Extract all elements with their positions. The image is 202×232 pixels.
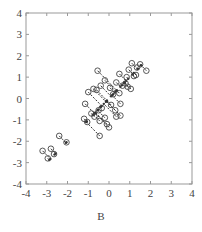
y-tick-label: 3 [17,28,23,40]
y-tick-label: -4 [13,178,23,190]
x-axis-tick-labels: -4-3-2-101234 [21,187,195,199]
y-tick-label: 1 [17,71,23,83]
x-tick-label: -1 [84,187,93,199]
data-point [85,89,91,95]
y-tick-label: -3 [13,157,23,169]
y-tick-label: 4 [17,7,23,19]
y-tick-label: 2 [17,50,23,62]
x-tick-label: 3 [169,187,175,199]
data-point [95,68,101,74]
data-point [81,116,87,122]
scatter-chart: -4-3-2-101234 -4-3-2-101234 [0,0,202,232]
x-tick-label: -2 [63,187,72,199]
x-tick-label: 4 [189,187,195,199]
y-tick-label: 0 [17,93,23,105]
x-tick-label: 1 [127,187,133,199]
y-axis-tick-labels: -4-3-2-101234 [13,7,23,190]
y-tick-label: -1 [13,114,22,126]
x-tick-label: -4 [21,187,31,199]
y-tick-label: -2 [13,135,22,147]
figure-caption: B [0,210,202,222]
x-tick-label: -3 [42,187,52,199]
x-tick-label: 0 [106,187,112,199]
x-tick-label: 2 [148,187,154,199]
projection-segments [43,63,147,161]
